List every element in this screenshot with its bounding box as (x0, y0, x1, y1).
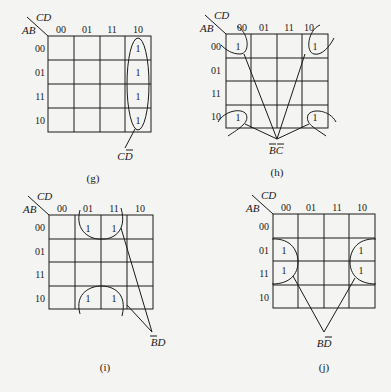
row-header: 10 (259, 292, 269, 303)
cell-one: 1 (282, 265, 287, 276)
cell-one: 1 (86, 223, 91, 234)
row-var-label: AB (21, 24, 36, 36)
row-header: 11 (259, 268, 269, 279)
col-headers: 00 01 11 10 (281, 202, 367, 213)
row-header: 01 (211, 65, 221, 76)
col-header: 00 (57, 203, 67, 214)
cell-one: 1 (112, 293, 117, 304)
row-header: 00 (35, 43, 45, 54)
kmap-g: CD AB 00 01 11 10 00 01 11 10 1 1 1 1 (21, 11, 151, 185)
kmap-grid (49, 215, 153, 309)
kmap-h: CD AB 00 01 11 10 00 01 11 10 1 1 1 1 (199, 9, 336, 179)
col-header: 10 (135, 203, 145, 214)
cell-one: 1 (136, 115, 141, 126)
col-var-label: CD (214, 9, 229, 21)
row-header: 11 (211, 88, 221, 99)
cell-one: 1 (313, 41, 318, 52)
row-var-label: AB (245, 202, 260, 214)
col-header: 11 (284, 22, 294, 33)
row-header: 11 (35, 91, 45, 102)
group-term-label: BD (317, 337, 332, 349)
leader-line (121, 228, 152, 332)
row-var-label: AB (199, 22, 214, 34)
col-header: 00 (56, 24, 66, 35)
kmap-j: CD AB 00 01 11 10 00 01 11 10 1 1 1 1 (245, 189, 376, 374)
group-term-label: BD (151, 336, 166, 348)
col-header: 10 (357, 202, 367, 213)
caption: (h) (271, 166, 284, 179)
cell-one: 1 (359, 265, 364, 276)
col-header: 11 (107, 24, 117, 35)
cell-one: 1 (313, 112, 318, 123)
cell-one: 1 (86, 293, 91, 304)
row-header: 10 (35, 115, 45, 126)
row-headers: 00 01 11 10 (259, 221, 269, 303)
kmap-grid (273, 214, 375, 308)
col-header: 11 (332, 202, 342, 213)
col-headers: 00 01 11 10 (57, 203, 145, 214)
kmap-i: CD AB 00 01 11 10 00 01 11 10 1 1 1 1 (22, 190, 165, 374)
row-header: 01 (259, 245, 269, 256)
karnaugh-map-figure: CD AB 00 01 11 10 00 01 11 10 1 1 1 1 (0, 0, 391, 392)
caption: (i) (100, 361, 111, 374)
cell-one: 1 (236, 112, 241, 123)
col-var-label: CD (36, 11, 51, 23)
col-header: 01 (82, 24, 92, 35)
col-header: 01 (259, 22, 269, 33)
row-header: 00 (259, 221, 269, 232)
row-header: 01 (35, 246, 45, 257)
leader-line (277, 54, 305, 139)
cell-one: 1 (282, 245, 287, 256)
col-headers: 00 01 11 10 (237, 22, 314, 33)
col-var-label: CD (261, 189, 276, 201)
col-header: 10 (133, 24, 143, 35)
group-loop-bottom-left (218, 111, 247, 136)
col-headers: 00 01 11 10 (56, 24, 143, 35)
cell-one: 1 (236, 41, 241, 52)
col-var-label: CD (37, 190, 52, 202)
row-header: 01 (35, 67, 45, 78)
row-header: 10 (35, 293, 45, 304)
cell-one: 1 (136, 91, 141, 102)
col-header: 11 (109, 203, 119, 214)
col-header: 01 (306, 202, 316, 213)
leader-line (277, 124, 309, 139)
row-var-label: AB (22, 203, 37, 215)
caption: (j) (319, 361, 330, 374)
cell-one: 1 (136, 67, 141, 78)
row-headers: 00 01 11 10 (211, 41, 221, 122)
cell-one: 1 (136, 43, 141, 54)
group-term-label: BC (269, 144, 284, 156)
group-term-label: CD (117, 150, 132, 162)
row-header: 00 (211, 41, 221, 52)
caption: (g) (87, 172, 100, 185)
leader-line (324, 278, 355, 332)
cell-one: 1 (359, 245, 364, 256)
row-headers: 00 01 11 10 (35, 43, 45, 126)
cell-one: 1 (112, 223, 117, 234)
row-header: 11 (35, 269, 45, 280)
col-header: 00 (281, 202, 291, 213)
row-headers: 00 01 11 10 (35, 222, 45, 304)
col-header: 01 (83, 203, 93, 214)
row-header: 00 (35, 222, 45, 233)
